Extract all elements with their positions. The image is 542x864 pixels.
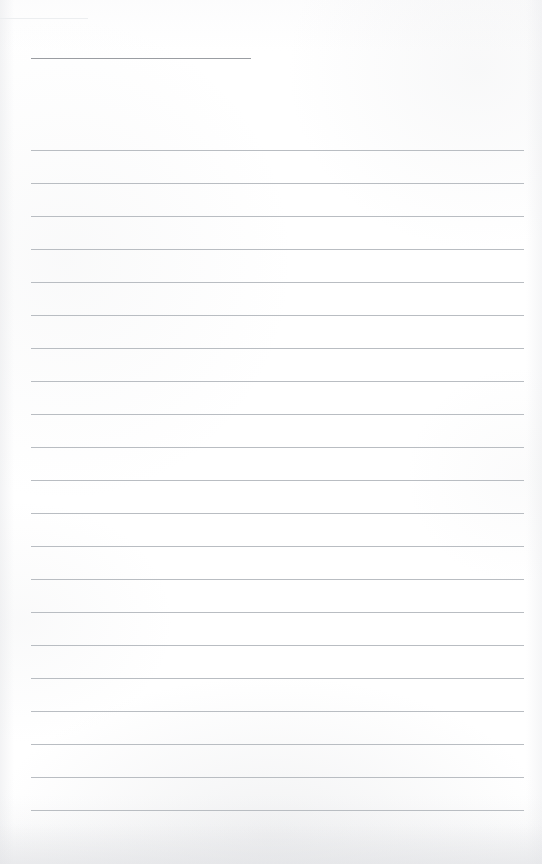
writing-line-input[interactable] (31, 753, 524, 779)
writing-line-input[interactable] (31, 324, 524, 350)
writing-line-input[interactable] (31, 159, 524, 185)
writing-line-input[interactable] (31, 588, 524, 614)
writing-line-input[interactable] (31, 192, 524, 218)
writing-line-input[interactable] (31, 423, 524, 449)
writing-line-input[interactable] (31, 390, 524, 416)
notebook-page (0, 0, 542, 864)
writing-line-input[interactable] (31, 621, 524, 647)
writing-line-input[interactable] (31, 555, 524, 581)
writing-line-input[interactable] (31, 687, 524, 713)
writing-line-input[interactable] (31, 522, 524, 548)
writing-line-input[interactable] (31, 456, 524, 482)
writing-line-input[interactable] (31, 489, 524, 515)
writing-line-input[interactable] (31, 291, 524, 317)
writing-line-input[interactable] (31, 786, 524, 812)
writing-line-input[interactable] (31, 654, 524, 680)
writing-area[interactable] (0, 0, 542, 864)
writing-line-input[interactable] (31, 126, 524, 152)
writing-line-input[interactable] (31, 258, 524, 284)
writing-line-input[interactable] (31, 720, 524, 746)
writing-line-input[interactable] (31, 357, 524, 383)
writing-line-input[interactable] (31, 225, 524, 251)
